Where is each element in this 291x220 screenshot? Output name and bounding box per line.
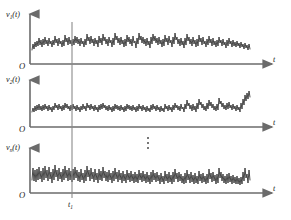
sampling-time-label: t1 [68, 200, 73, 210]
panel-2-t-label: t [273, 118, 276, 127]
panel-1-origin-label: O [19, 61, 25, 71]
vertical-ellipsis [147, 137, 149, 149]
panel-2-waveform [32, 91, 250, 112]
panel-2-origin-label: O [19, 124, 25, 134]
panel-3-waveform [32, 165, 250, 185]
panel-1-y-label: v1(t) [6, 10, 20, 20]
panel-1-t-label: t [273, 55, 276, 64]
panel-1: v1(t) O t [6, 10, 276, 71]
panel-2: v2(t) O t [6, 75, 276, 134]
panel-2-y-label: v2(t) [6, 75, 20, 85]
panel-3-y-label: vn(t) [6, 143, 20, 153]
panel-3: vn(t) O t [6, 143, 276, 200]
random-process-ensemble-figure: v1(t) O t v2(t) O t v [0, 0, 291, 220]
panel-3-t-label: t [273, 184, 276, 193]
panel-1-waveform [32, 33, 250, 50]
panel-3-origin-label: O [19, 190, 25, 200]
